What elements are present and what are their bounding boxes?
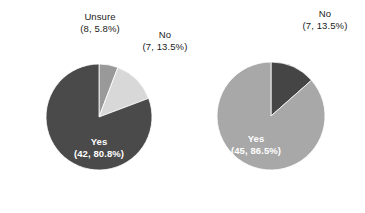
- right-pie-label-yes: Yes (45, 86.5%): [206, 133, 306, 156]
- left-pie-label-no: No (7, 13.5%): [131, 29, 199, 52]
- left-pie-label-yes: Yes (42, 80.8%): [49, 136, 149, 159]
- right-pie-label-yes-name: Yes: [206, 133, 306, 145]
- left-pie-label-no-name: No: [131, 29, 199, 41]
- right-pie-label-no-name: No: [285, 8, 365, 20]
- left-pie-label-yes-value: (42, 80.8%): [49, 148, 149, 160]
- right-pie-label-no: No (7, 13.5%): [285, 8, 365, 31]
- left-pie-label-unsure: Unsure (8, 5.8%): [60, 11, 140, 34]
- right-pie-label-no-value: (7, 13.5%): [285, 20, 365, 32]
- left-pie-label-yes-name: Yes: [49, 136, 149, 148]
- left-pie-label-no-value: (7, 13.5%): [131, 41, 199, 53]
- left-pie-label-unsure-value: (8, 5.8%): [60, 23, 140, 35]
- right-pie-label-yes-value: (45, 86.5%): [206, 145, 306, 157]
- pie-chart-figure: Unsure (8, 5.8%) No (7, 13.5%) Yes (42, …: [0, 0, 365, 213]
- left-pie-label-unsure-name: Unsure: [60, 11, 140, 23]
